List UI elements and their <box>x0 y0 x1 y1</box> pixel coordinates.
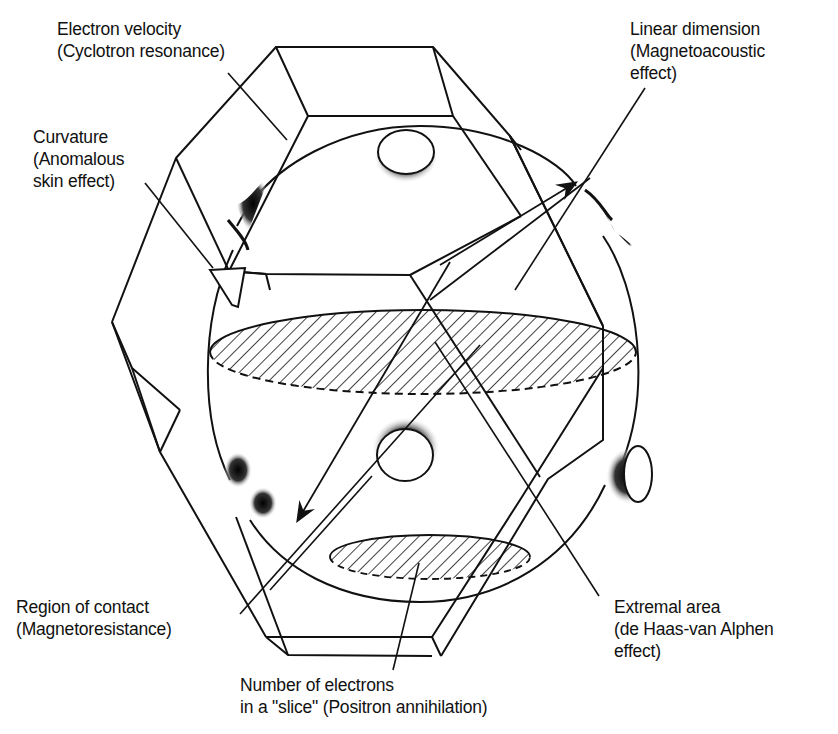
label-region-of-contact-line2: (Magnetoresistance) <box>16 618 172 640</box>
label-number-of-electrons-line2: in a "slice" (Positron annihilation) <box>240 696 487 718</box>
top-square-face <box>276 47 453 116</box>
label-electron-velocity-line2: (Cyclotron resonance) <box>57 40 225 62</box>
label-curvature: Curvature (Anomalous skin effect) <box>33 126 124 192</box>
linear-dimension-arrow <box>430 178 590 300</box>
label-linear-dimension-line2: (Magnetoacoustic <box>630 40 765 62</box>
label-region-of-contact: Region of contact (Magnetoresistance) <box>16 596 172 640</box>
label-linear-dimension: Linear dimension (Magnetoacoustic effect… <box>630 18 765 84</box>
label-number-of-electrons: Number of electrons in a "slice" (Positr… <box>240 674 487 718</box>
label-linear-dimension-line1: Linear dimension <box>630 18 765 40</box>
label-extremal-area-line2: (de Haas-van Alphen <box>614 618 774 640</box>
label-extremal-area-line1: Extremal area <box>614 596 774 618</box>
label-extremal-area: Extremal area (de Haas-van Alphen effect… <box>614 596 774 662</box>
label-linear-dimension-line3: effect) <box>630 62 765 84</box>
label-curvature-line1: Curvature <box>33 126 124 148</box>
label-region-of-contact-line1: Region of contact <box>16 596 172 618</box>
label-extremal-area-line3: effect) <box>614 640 774 662</box>
label-electron-velocity-line1: Electron velocity <box>57 18 225 40</box>
label-electron-velocity: Electron velocity (Cyclotron resonance) <box>57 18 225 62</box>
label-curvature-line2: (Anomalous <box>33 148 124 170</box>
label-number-of-electrons-line1: Number of electrons <box>240 674 487 696</box>
label-curvature-line3: skin effect) <box>33 170 124 192</box>
